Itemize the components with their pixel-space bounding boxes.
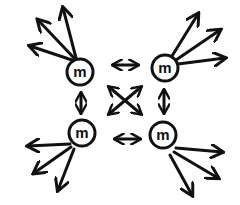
outward-arrows-top-left bbox=[30, 8, 76, 60]
arrow-icon bbox=[176, 148, 222, 152]
node-bottom-left: m bbox=[69, 120, 95, 146]
node-label: m bbox=[73, 63, 86, 80]
node-top-left: m bbox=[67, 59, 93, 85]
outward-arrows-bottom-right bbox=[170, 148, 222, 195]
node-top-right: m bbox=[152, 55, 178, 81]
arrow-icon bbox=[178, 58, 225, 64]
outward-arrows-top-right bbox=[172, 14, 225, 64]
arrow-icon bbox=[28, 144, 70, 146]
node-label: m bbox=[75, 124, 88, 141]
arrow-icon bbox=[176, 30, 220, 60]
node-label: m bbox=[156, 126, 169, 143]
network-diagram: m m m m bbox=[0, 0, 240, 205]
outward-arrows-bottom-left bbox=[28, 144, 74, 190]
node-bottom-right: m bbox=[150, 122, 176, 148]
arrow-icon bbox=[172, 14, 198, 56]
node-label: m bbox=[158, 59, 171, 76]
